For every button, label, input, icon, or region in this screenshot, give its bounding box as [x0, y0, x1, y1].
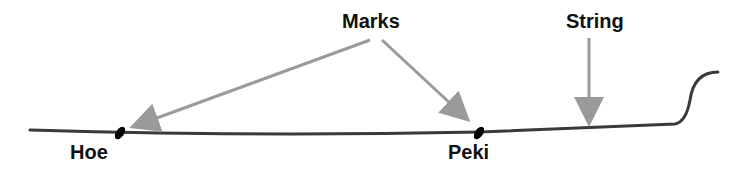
marks-arrow-to-peki — [382, 40, 466, 118]
hoe-label: Hoe — [70, 141, 108, 164]
string-line — [30, 72, 718, 134]
marks-arrow-to-hoe — [135, 40, 370, 126]
marks-label: Marks — [342, 10, 400, 33]
string-label: String — [566, 10, 624, 33]
peki-label: Peki — [448, 141, 489, 164]
